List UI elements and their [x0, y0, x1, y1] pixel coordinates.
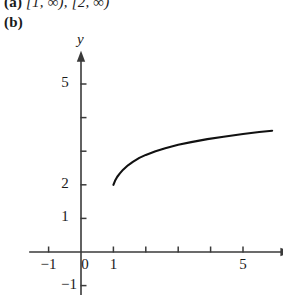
y-tick-label-neg1: −1 — [57, 276, 81, 293]
curve-path — [113, 131, 272, 185]
y-axis-label: y — [77, 31, 84, 48]
answer-part-b-label: (b) — [4, 14, 23, 31]
answer-part-a-text: [1, ∞), [2, ∞) — [26, 0, 109, 10]
graph-plot-area: −1015−1125 x y — [0, 30, 283, 295]
answer-part-a-label: (a) — [4, 0, 22, 10]
x-axis-arrowhead — [280, 248, 283, 256]
answer-part-a: (a) [1, ∞), [2, ∞) — [4, 0, 109, 11]
x-tick-label--1: −1 — [37, 256, 61, 273]
x-tick-label-0: 0 — [73, 256, 97, 273]
x-tick-label-5: 5 — [231, 256, 255, 273]
figure-root: (a) [1, ∞), [2, ∞) (b) −1015−1125 x y — [0, 0, 283, 295]
y-axis-arrowhead — [77, 51, 85, 62]
y-tick-label-2: 2 — [53, 175, 77, 192]
x-axis — [29, 247, 283, 257]
y-tick-label-5: 5 — [53, 74, 77, 91]
x-tick-label-1: 1 — [101, 256, 125, 273]
y-tick-label-1: 1 — [53, 208, 77, 225]
